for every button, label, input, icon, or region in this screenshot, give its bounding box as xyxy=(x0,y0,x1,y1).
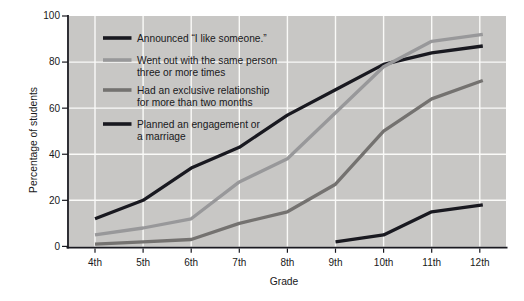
y-axis-label: Percentage of students xyxy=(28,87,39,193)
y-tick-label-40: 40 xyxy=(49,149,61,160)
legend-label-went-out-line-2: three or more times xyxy=(137,67,225,78)
x-tick-label-5th: 5th xyxy=(136,257,150,268)
y-tick-label-100: 100 xyxy=(43,10,60,21)
y-tick-label-0: 0 xyxy=(54,241,60,252)
x-tick-label-12th: 12th xyxy=(470,257,489,268)
legend-label-exclusive-relationship-line-2: for more than two months xyxy=(137,97,253,108)
x-tick-label-4th: 4th xyxy=(88,257,102,268)
y-tick-label-80: 80 xyxy=(49,56,61,67)
y-tick-label-20: 20 xyxy=(49,195,61,206)
legend-label-engagement-line-2: a marriage xyxy=(137,131,186,142)
legend-label-exclusive-relationship-line-1: Had an exclusive relationship xyxy=(137,85,270,96)
legend-label-went-out-line-1: Went out with the same person xyxy=(137,55,277,66)
x-axis-label: Grade xyxy=(270,276,299,287)
x-tick-label-8th: 8th xyxy=(280,257,294,268)
x-tick-label-10th: 10th xyxy=(374,257,393,268)
legend-label-announced-line-1: Announced “I like someone.” xyxy=(137,33,267,44)
figure: 0204060801004th5th6th7th8th9th10th11th12… xyxy=(0,0,524,301)
y-tick-label-60: 60 xyxy=(49,103,61,114)
x-tick-label-11th: 11th xyxy=(422,257,441,268)
legend-label-engagement-line-1: Planned an engagement or xyxy=(137,119,261,130)
x-tick-label-6th: 6th xyxy=(184,257,198,268)
x-tick-label-9th: 9th xyxy=(329,257,343,268)
x-tick-label-7th: 7th xyxy=(232,257,246,268)
line-chart: 0204060801004th5th6th7th8th9th10th11th12… xyxy=(0,0,524,301)
